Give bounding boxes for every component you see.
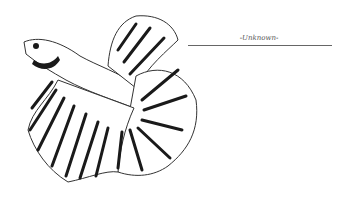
caption-underline — [188, 45, 332, 46]
betta-fish-illustration — [18, 10, 198, 190]
attribution-caption: -Unknown- — [186, 34, 332, 42]
fish-eye — [33, 43, 39, 49]
